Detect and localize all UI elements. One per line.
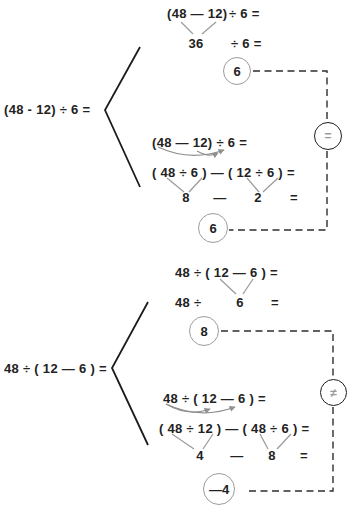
math-diagram: (48 - 12) ÷ 6 = (48 — 12) ÷ 6 = 36 ÷ 6 =… xyxy=(0,0,354,512)
p2m1-row2-eq: = xyxy=(271,295,279,310)
problem1-brace xyxy=(105,47,140,187)
p2m1-row2-lhs: 48 ÷ xyxy=(175,295,201,310)
p1m2-row3-op: — xyxy=(213,190,226,205)
p1m1-row2-value: 36 xyxy=(188,36,203,51)
p1-left-expression: (48 - 12) ÷ 6 = xyxy=(4,102,90,117)
p2m2-line-c xyxy=(260,434,268,449)
p1m2-line-b xyxy=(189,178,202,192)
p1-dash-bottom xyxy=(229,151,327,230)
p2m2-row3-term1: 4 xyxy=(196,448,204,463)
p1m2-result-circle: 6 xyxy=(198,213,228,243)
p1m1-result-circle: 6 xyxy=(223,57,251,85)
p1m1-line-left xyxy=(181,22,193,34)
p2m2-row3-eq: = xyxy=(300,448,308,463)
p2-dash-top xyxy=(221,331,333,377)
p1-arrow-short xyxy=(197,151,218,155)
p2m2-row2: ( 48 ÷ 12 ) — ( 48 ÷ 6 ) = xyxy=(159,421,309,436)
p2-dash-bottom xyxy=(246,407,333,491)
p1m2-row2: ( 48 ÷ 6 ) — ( 12 ÷ 6 ) = xyxy=(152,165,295,180)
p2m2-line-a xyxy=(172,434,194,449)
p2m2-row1: 48 ÷ ( 12 — 6 ) = xyxy=(163,391,266,406)
p2m1-line-right xyxy=(243,279,253,294)
p2m1-row1: 48 ÷ ( 12 — 6 ) = xyxy=(175,265,278,280)
problem2-brace xyxy=(112,302,148,445)
p2-left-expression: 48 ÷ ( 12 — 6 ) = xyxy=(4,361,107,376)
p1m1-row1-rhs: ÷ 6 = xyxy=(229,6,260,21)
p1m2-row3-term2: 2 xyxy=(254,190,262,205)
p1-dash-top xyxy=(253,71,327,121)
p1m2-row1: (48 — 12) ÷ 6 = xyxy=(152,135,247,150)
p1m1-row2-rhs: ÷ 6 = xyxy=(231,36,262,51)
p1m2-row3-term1: 8 xyxy=(182,190,190,205)
p2m1-line-left xyxy=(220,279,236,294)
p1m2-row3-eq: = xyxy=(290,190,298,205)
p2m2-line-b xyxy=(203,434,213,449)
p2-verdict-circle: ≠ xyxy=(320,379,347,406)
p2m2-row3-term2: 8 xyxy=(268,448,276,463)
p2m1-row2-value: 6 xyxy=(236,295,244,310)
p1m2-line-d xyxy=(263,178,278,192)
p1m1-row1-lhs: (48 — 12) xyxy=(167,6,228,21)
p2m2-result-circle: —4 xyxy=(203,473,235,505)
p2m2-line-d xyxy=(277,434,291,449)
p1-verdict-circle: = xyxy=(314,122,342,150)
p2m1-result-circle: 8 xyxy=(189,316,219,346)
decomposition-lines xyxy=(167,22,291,449)
p1m1-line-right xyxy=(202,22,216,34)
p2m2-row3-op: — xyxy=(230,448,243,463)
